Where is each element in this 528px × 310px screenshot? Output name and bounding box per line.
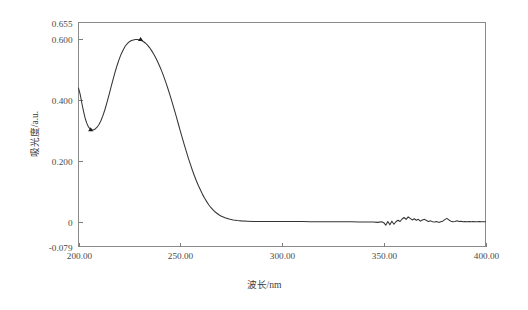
x-tick-label: 350.00 xyxy=(372,251,398,261)
y-tick-label: 0.400 xyxy=(52,96,73,106)
y-tick-label: 0.655 xyxy=(52,19,73,29)
x-tick-label: 250.00 xyxy=(168,251,194,261)
chart-canvas: 200.00250.00300.00350.00400.00 -0.07900.… xyxy=(0,0,528,310)
y-axis-title: 吸光度/a.u. xyxy=(29,111,40,158)
x-tick-labels: 200.00250.00300.00350.00400.00 xyxy=(67,251,500,261)
plot-frame xyxy=(79,23,486,247)
absorbance-curve xyxy=(79,40,486,226)
spectrum-figure: 200.00250.00300.00350.00400.00 -0.07900.… xyxy=(0,0,528,310)
data-series-group xyxy=(79,40,486,226)
x-tick-marks xyxy=(80,243,487,247)
y-tick-labels: -0.07900.2000.4000.6000.655 xyxy=(49,19,73,253)
x-axis-title: 波长/nm xyxy=(247,279,282,290)
y-tick-marks xyxy=(79,40,83,223)
peak-markers xyxy=(88,37,143,131)
data-point-marker xyxy=(138,37,143,41)
y-tick-label: 0.600 xyxy=(52,35,73,45)
x-tick-label: 300.00 xyxy=(270,251,296,261)
y-tick-label: -0.079 xyxy=(49,243,73,253)
x-tick-label: 400.00 xyxy=(474,251,500,261)
axis-frame xyxy=(79,23,486,247)
y-tick-label: 0 xyxy=(68,218,73,228)
y-tick-label: 0.200 xyxy=(52,157,73,167)
